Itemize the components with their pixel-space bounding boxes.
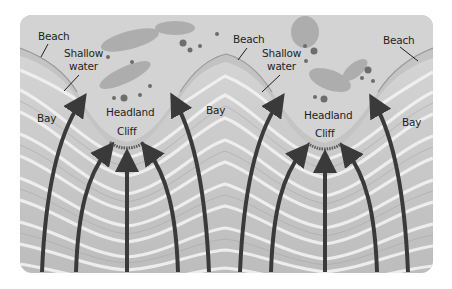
label-shallow-right: Shallow bbox=[262, 47, 301, 59]
wave-refraction-diagram: Beach Shallow water Bay Headland Cliff B… bbox=[0, 0, 452, 289]
label-headland-right: Headland bbox=[304, 109, 353, 121]
label-cliff-left: Cliff bbox=[117, 125, 137, 137]
label-cliff-right: Cliff bbox=[315, 127, 335, 139]
label-shallow-left: Shallow bbox=[64, 47, 103, 59]
label-water-right: water bbox=[267, 60, 296, 72]
label-headland-left: Headland bbox=[106, 106, 155, 118]
label-water-left: water bbox=[69, 60, 98, 72]
label-beach-right: Beach bbox=[383, 34, 415, 46]
label-beach-middle: Beach bbox=[233, 33, 265, 45]
label-bay-right: Bay bbox=[402, 116, 421, 128]
label-bay-middle: Bay bbox=[206, 104, 225, 116]
label-bay-left: Bay bbox=[37, 112, 56, 124]
label-beach-left: Beach bbox=[38, 30, 70, 42]
